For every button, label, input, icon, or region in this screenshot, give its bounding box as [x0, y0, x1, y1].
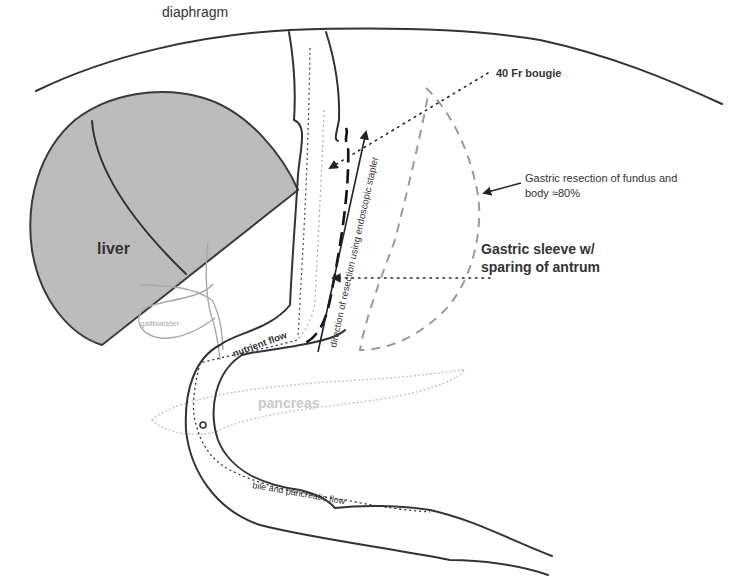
diaphragm-curve: [36, 29, 722, 104]
resected-stomach-outline: [360, 88, 479, 350]
gastric-sleeve-outline: [186, 32, 552, 575]
resection-callout: [484, 183, 521, 193]
bougie-callout: [330, 73, 488, 168]
resection-label-line1: Gastric resection of fundus and: [525, 172, 677, 184]
bougie-line: [298, 48, 310, 338]
nutrient-flow-label: nutrient flow: [231, 329, 289, 359]
sleeve-gastrectomy-diagram: diaphragm liver gallbladder pancreas dir…: [0, 0, 740, 577]
stapler-direction-label: direction of resection using endoscopic …: [327, 156, 380, 349]
gallbladder-label: gallbladder: [140, 319, 179, 328]
pancreas-label: pancreas: [258, 395, 320, 411]
bougie-label: 40 Fr bougie: [496, 67, 561, 79]
bile-flow-label: bile and pancreatic flow: [252, 480, 347, 506]
ampulla-marker: [200, 422, 206, 428]
sleeve-label-line1: Gastric sleeve w/: [481, 241, 595, 257]
sleeve-label-line2: sparing of antrum: [481, 259, 600, 275]
resection-label-line2: body ≈80%: [525, 187, 580, 199]
diaphragm-label: diaphragm: [162, 4, 228, 20]
liver-label: liver: [97, 240, 130, 257]
